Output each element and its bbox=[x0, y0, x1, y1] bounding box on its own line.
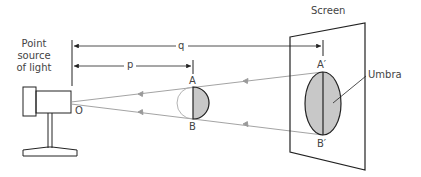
screen-label: Screen bbox=[311, 5, 345, 16]
umbra-shadow bbox=[305, 72, 341, 135]
point-o-label: O bbox=[75, 105, 83, 116]
source-label-line1: Point bbox=[4, 38, 64, 50]
source-label-line3: of light bbox=[4, 62, 64, 74]
umbra-label: Umbra bbox=[368, 69, 402, 80]
opaque-object bbox=[177, 87, 209, 119]
source-label: Point source of light bbox=[4, 38, 64, 74]
p-dimension bbox=[74, 60, 193, 74]
b-label: B bbox=[189, 121, 196, 132]
q-dimension bbox=[74, 40, 323, 56]
q-label: q bbox=[178, 40, 184, 51]
source-label-line2: source bbox=[4, 50, 64, 62]
b-prime-label: B′ bbox=[317, 138, 326, 149]
a-prime-label: A′ bbox=[317, 59, 326, 70]
p-label: p bbox=[127, 59, 133, 70]
shadow-diagram bbox=[0, 0, 421, 177]
light-source-icon bbox=[23, 87, 77, 156]
a-label: A bbox=[189, 75, 196, 86]
